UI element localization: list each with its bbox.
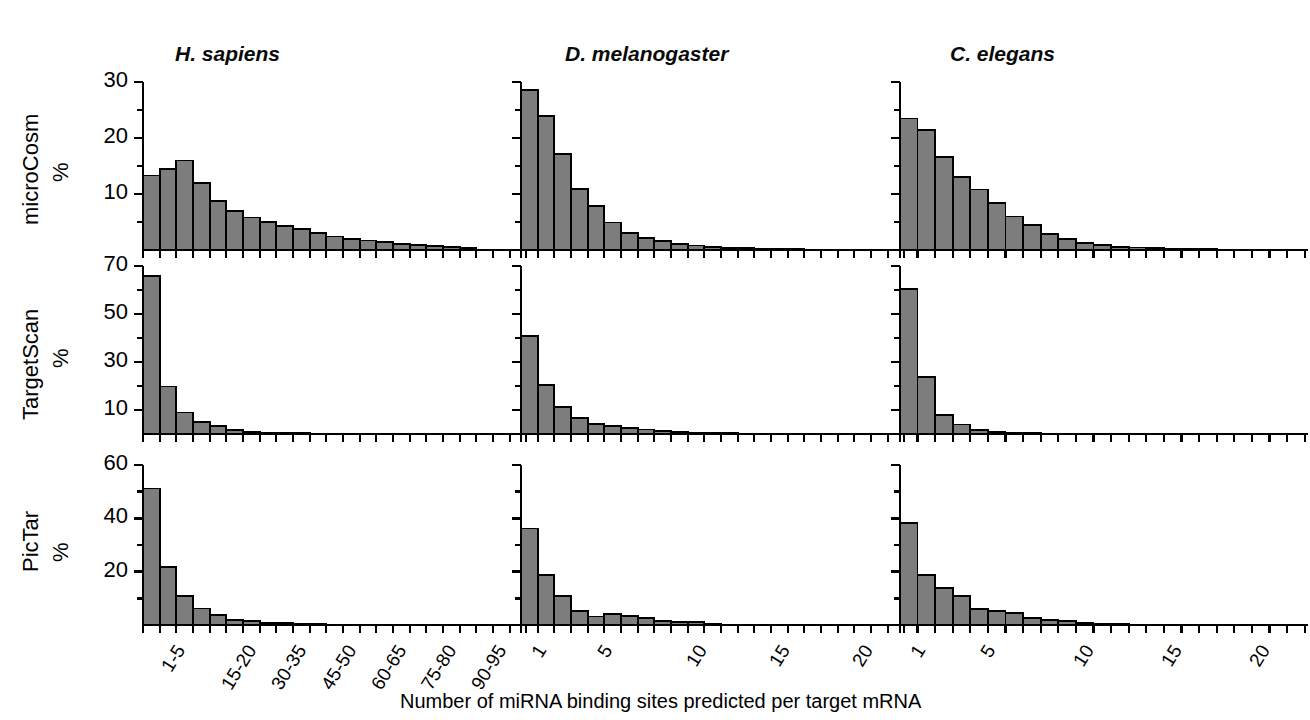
histogram-bar (521, 90, 538, 250)
y-tick-label: 70 (70, 251, 128, 277)
histogram-bar (900, 523, 918, 625)
histogram-bar (210, 615, 227, 625)
histogram-bar (426, 246, 443, 250)
histogram-bar (276, 226, 293, 250)
histogram-bar (953, 424, 971, 434)
histogram-bar (210, 201, 227, 250)
plot-panel (511, 252, 911, 450)
histogram-bar (460, 248, 477, 250)
histogram-bar (193, 183, 210, 250)
histogram-bar (935, 588, 953, 625)
histogram-bar (1129, 247, 1147, 250)
histogram-bar (738, 248, 755, 250)
y-tick-label: 10 (70, 179, 128, 205)
histogram-bar (704, 624, 721, 625)
histogram-bar (970, 190, 988, 250)
histogram-bar (521, 336, 538, 434)
x-tick-label: 10 (1069, 641, 1099, 671)
plot-panel (511, 451, 911, 641)
histogram-bar (621, 428, 638, 434)
histogram-bar (571, 418, 588, 434)
histogram-bar (1006, 613, 1024, 625)
histogram-bar (771, 249, 788, 250)
histogram-bar (176, 412, 193, 434)
column-title-c-elegans: C. elegans (950, 42, 1055, 66)
histogram-bar (243, 432, 260, 434)
histogram-bar (160, 386, 177, 434)
histogram-bar (721, 433, 738, 434)
histogram-bar (410, 245, 427, 250)
histogram-bar (688, 246, 705, 250)
row-label-targetscan: TargetScan (18, 309, 44, 420)
histogram-bar (1076, 623, 1094, 625)
histogram-bar (788, 249, 805, 250)
histogram-bar (1111, 624, 1129, 625)
histogram-bar (704, 247, 721, 250)
histogram-bar (276, 623, 293, 625)
histogram-bar (953, 596, 971, 625)
plot-panel (133, 451, 533, 641)
histogram-bar (1023, 433, 1041, 434)
histogram-bar (654, 431, 671, 434)
histogram-bar (143, 176, 160, 250)
x-tick-label: 15-20 (216, 641, 260, 694)
histogram-bar (243, 621, 260, 625)
histogram-bar (343, 239, 360, 250)
column-title-h-sapiens: H. sapiens (175, 42, 280, 66)
histogram-bar (143, 488, 160, 625)
histogram-bar (1076, 243, 1094, 250)
histogram-bar (721, 248, 738, 250)
histogram-bar (1041, 234, 1059, 250)
histogram-bar (1146, 248, 1164, 250)
x-tick-label: 10 (681, 641, 711, 671)
histogram-bar (293, 229, 310, 250)
plot-panel (890, 252, 1310, 450)
column-title-d-melanogaster: D. melanogaster (565, 42, 728, 66)
histogram-bar (260, 623, 277, 625)
histogram-bar (160, 169, 177, 250)
y-tick-label: 30 (70, 347, 128, 373)
histogram-bar (310, 233, 327, 250)
histogram-bar (654, 241, 671, 250)
y-tick-label: 60 (70, 450, 128, 476)
plot-panel (890, 451, 1310, 641)
histogram-bar (1199, 249, 1217, 250)
histogram-bar (671, 432, 688, 434)
histogram-bar (1006, 433, 1024, 434)
y-tick-label: 20 (70, 123, 128, 149)
x-tick-label: 45-50 (316, 641, 360, 694)
row-label-microcosm: microCosm (18, 114, 44, 225)
y-tick-label: 20 (70, 557, 128, 583)
histogram-bar (554, 154, 571, 250)
histogram-bar (604, 614, 621, 625)
histogram-bar (143, 276, 160, 434)
histogram-bar (443, 247, 460, 250)
x-tick-label: 30-35 (266, 641, 310, 694)
histogram-bar (193, 608, 210, 625)
histogram-bar (310, 624, 327, 625)
histogram-bar (588, 616, 605, 625)
histogram-bar (988, 611, 1006, 625)
histogram-bar (900, 118, 918, 250)
histogram-bar (210, 426, 227, 434)
histogram-bar (1058, 239, 1076, 250)
histogram-bar (900, 289, 918, 434)
histogram-bar (638, 618, 655, 625)
y-tick-label: 30 (70, 67, 128, 93)
histogram-bar (918, 377, 936, 434)
histogram-bar (1111, 247, 1129, 250)
x-tick-label: 15 (1157, 641, 1187, 671)
histogram-bar (538, 385, 555, 434)
histogram-bar (918, 130, 936, 250)
histogram-bar (638, 238, 655, 250)
histogram-bar (688, 433, 705, 434)
x-tick-label: 1 (526, 641, 550, 662)
histogram-bar (326, 237, 343, 250)
histogram-bar (588, 424, 605, 434)
histogram-bar (160, 567, 177, 625)
histogram-bar (243, 218, 260, 250)
histogram-bar (1094, 624, 1112, 625)
histogram-bar (821, 249, 838, 250)
x-tick-label: 1 (906, 641, 930, 662)
histogram-bar (988, 432, 1006, 434)
